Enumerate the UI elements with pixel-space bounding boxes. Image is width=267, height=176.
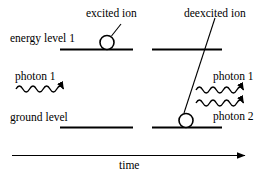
- energy-level-diagram: excited ion deexcited ion energy level 1…: [0, 0, 267, 176]
- energy-level-1-label: energy level 1: [10, 33, 75, 45]
- deexcited-ion-label: deexcited ion: [184, 8, 246, 20]
- excited-ion-circle: [100, 36, 114, 50]
- deexcited-ion-leader-line: [184, 18, 215, 113]
- diagram-canvas: [0, 0, 267, 176]
- deexcited-ion-circle: [179, 114, 193, 128]
- time-axis-label: time: [119, 160, 139, 172]
- photon-2-outgoing-label: photon 2: [213, 111, 254, 123]
- photon-1-outgoing-wave: [196, 87, 244, 93]
- photon-2-outgoing-wave: [196, 100, 244, 106]
- photon-1-outgoing-label: photon 1: [213, 71, 254, 83]
- ground-level-label: ground level: [10, 112, 68, 124]
- excited-ion-leader-line: [112, 24, 122, 36]
- excited-ion-label: excited ion: [86, 8, 137, 20]
- photon-1-incoming-wave: [16, 86, 64, 92]
- photon-1-incoming-label: photon 1: [15, 71, 56, 83]
